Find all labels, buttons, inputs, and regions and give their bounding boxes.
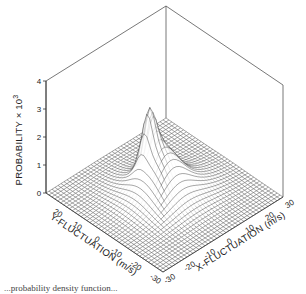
figure-caption: ...probability density function...: [4, 283, 117, 293]
svg-text:-30: -30: [148, 272, 163, 286]
svg-text:0: 0: [37, 189, 42, 198]
svg-text:PROBABILITY × 103: PROBABILITY × 103: [12, 95, 24, 186]
svg-text:1: 1: [37, 161, 42, 170]
surface-plot: 0123420100-10-20-30-30-20-100102030 PROB…: [0, 0, 306, 294]
svg-text:30: 30: [284, 197, 297, 210]
z-axis-title: PROBABILITY × 103: [12, 95, 24, 186]
probability-surface: [46, 108, 283, 272]
svg-text:4: 4: [37, 77, 42, 86]
svg-text:2: 2: [37, 133, 42, 142]
svg-text:3: 3: [37, 105, 42, 114]
svg-text:-30: -30: [162, 272, 177, 286]
